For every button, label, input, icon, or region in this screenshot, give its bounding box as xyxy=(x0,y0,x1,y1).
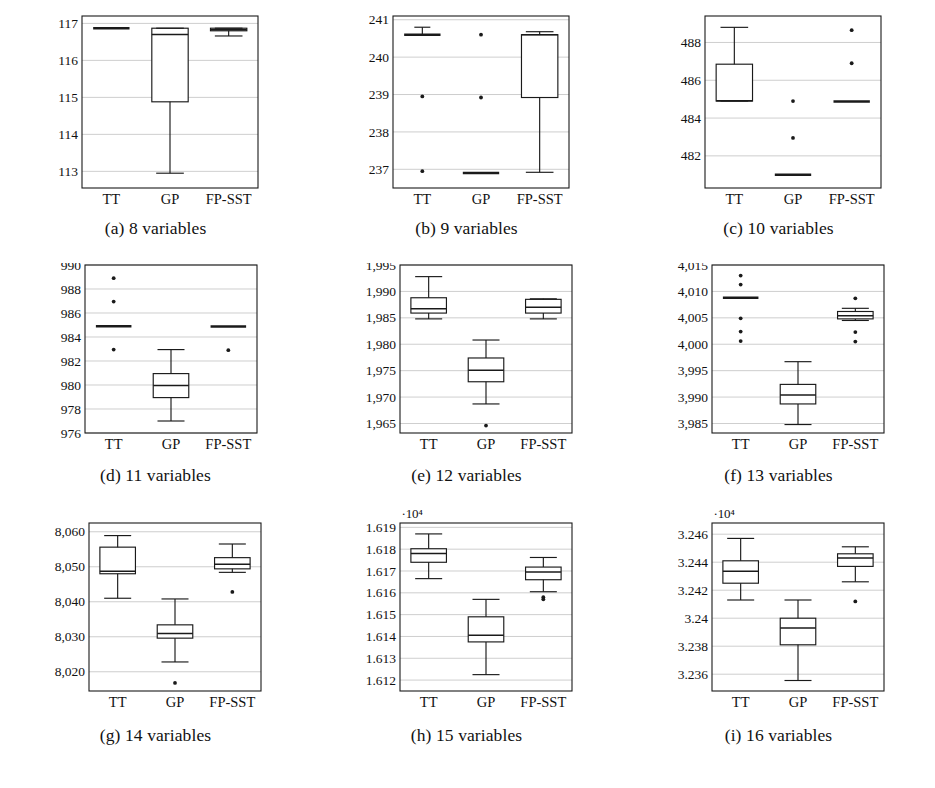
y-tick-label: 4,000 xyxy=(677,337,708,352)
y-tick-label: 117 xyxy=(58,16,78,31)
panel-e: 1,9651,9701,9751,9801,9851,9901,995TTGPF… xyxy=(311,253,622,503)
box-e-tt xyxy=(410,277,446,319)
y-tick-label: 240 xyxy=(368,50,389,65)
category-label-fp-sst: FP-SST xyxy=(832,694,878,710)
category-label-gp: GP xyxy=(788,436,807,452)
y-tick-label: 3.238 xyxy=(677,639,708,654)
axis-exponent-h: ·10⁴ xyxy=(402,507,423,520)
box-b-gp xyxy=(462,33,498,173)
box-rect xyxy=(468,617,504,642)
category-label-gp: GP xyxy=(476,694,495,710)
panel-f: 3,9853,9903,9954,0004,0054,0104,015TTGPF… xyxy=(622,253,935,503)
outlier-point xyxy=(791,99,795,103)
y-tick-label: 1.617 xyxy=(365,564,396,579)
y-tick-label: 990 xyxy=(60,263,81,273)
y-tick-label: 1.615 xyxy=(365,607,396,622)
y-tick-label: 1.613 xyxy=(365,651,396,666)
box-rect xyxy=(780,384,816,404)
outlier-point xyxy=(111,300,115,304)
y-tick-label: 976 xyxy=(60,426,81,441)
panel-caption-h: (h) 15 variables xyxy=(411,725,522,746)
outlier-point xyxy=(173,681,177,685)
outlier-point xyxy=(541,597,545,601)
y-tick-label: 3.244 xyxy=(677,555,708,570)
outlier-point xyxy=(853,340,857,344)
plot-area-f: 3,9853,9903,9954,0004,0054,0104,015TTGPF… xyxy=(664,263,894,457)
box-i-tt xyxy=(722,538,758,600)
category-label-tt: TT xyxy=(413,191,431,207)
box-rect xyxy=(525,567,561,580)
category-label-gp: GP xyxy=(788,694,807,710)
y-tick-label: 4,005 xyxy=(677,310,708,325)
panel-i: ·10⁴3.2363.2383.243.2423.2443.246TTGPFP-… xyxy=(622,503,935,788)
box-h-tt xyxy=(410,534,446,579)
category-label-fp-sst: FP-SST xyxy=(828,191,874,207)
plot-area-c: 482484486488TTGPFP-SST xyxy=(667,14,891,212)
category-label-gp: GP xyxy=(471,191,490,207)
boxplot-figure: 113114115116117TTGPFP-SST(a) 8 variables… xyxy=(0,0,935,788)
category-label-tt: TT xyxy=(104,436,122,452)
outlier-point xyxy=(791,136,795,140)
y-tick-label: 986 xyxy=(60,306,81,321)
category-label-gp: GP xyxy=(165,694,184,710)
box-rect xyxy=(410,549,446,563)
boxplot-svg-g: 8,0208,0308,0408,0508,060TTGPFP-SST xyxy=(41,521,271,715)
plot-area-i: ·10⁴3.2363.2383.243.2423.2443.246TTGPFP-… xyxy=(664,521,894,715)
box-g-fp-sst xyxy=(214,544,250,594)
axis-exponent-i: ·10⁴ xyxy=(714,507,735,520)
plot-area-d: 976978980982984986988990TTGPFP-SST xyxy=(45,263,267,457)
outlier-point xyxy=(853,330,857,334)
plot-area-b: 237238239240241TTGPFP-SST xyxy=(355,14,579,212)
box-d-tt xyxy=(95,276,131,351)
boxplot-svg-c: 482484486488TTGPFP-SST xyxy=(667,14,891,212)
panel-grid: 113114115116117TTGPFP-SST(a) 8 variables… xyxy=(0,0,935,788)
boxplot-svg-h: 1.6121.6131.6141.6151.6161.6171.6181.619… xyxy=(352,521,582,715)
y-tick-label: 1,980 xyxy=(365,337,396,352)
boxplot-svg-f: 3,9853,9903,9954,0004,0054,0104,015TTGPF… xyxy=(664,263,894,457)
box-b-fp-sst xyxy=(521,32,557,173)
y-tick-label: 980 xyxy=(60,378,81,393)
outlier-point xyxy=(420,169,424,173)
panel-d: 976978980982984986988990TTGPFP-SST(d) 11… xyxy=(0,253,311,503)
y-tick-label: 238 xyxy=(368,125,389,140)
outlier-point xyxy=(738,330,742,334)
y-tick-label: 3.236 xyxy=(677,667,708,682)
panel-caption-e: (e) 12 variables xyxy=(411,465,521,486)
y-tick-label: 239 xyxy=(368,87,389,102)
outlier-point xyxy=(226,348,230,352)
outlier-point xyxy=(479,33,483,37)
y-tick-label: 3,995 xyxy=(677,363,708,378)
box-rect xyxy=(716,64,752,101)
y-tick-label: 116 xyxy=(58,53,78,68)
category-label-fp-sst: FP-SST xyxy=(205,436,251,452)
box-f-tt xyxy=(722,274,758,343)
outlier-point xyxy=(738,283,742,287)
outlier-point xyxy=(849,61,853,65)
outlier-point xyxy=(230,590,234,594)
category-label-tt: TT xyxy=(731,436,749,452)
category-label-fp-sst: FP-SST xyxy=(520,694,566,710)
plot-area-g: 8,0208,0308,0408,0508,060TTGPFP-SST xyxy=(41,521,271,715)
box-f-fp-sst xyxy=(837,296,873,343)
box-h-fp-sst xyxy=(525,557,561,601)
outlier-point xyxy=(479,96,483,100)
y-tick-label: 1.614 xyxy=(365,629,396,644)
outlier-point xyxy=(853,296,857,300)
y-tick-label: 3.246 xyxy=(677,527,708,542)
box-rect xyxy=(837,554,873,567)
category-label-gp: GP xyxy=(161,436,180,452)
box-c-tt xyxy=(716,27,752,101)
box-i-gp xyxy=(780,600,816,681)
outlier-point xyxy=(738,316,742,320)
category-label-gp: GP xyxy=(160,191,179,207)
outlier-point xyxy=(849,28,853,32)
box-a-gp xyxy=(151,28,187,173)
boxplot-svg-d: 976978980982984986988990TTGPFP-SST xyxy=(45,263,267,457)
panel-caption-d: (d) 11 variables xyxy=(100,465,211,486)
outlier-point xyxy=(738,274,742,278)
category-label-fp-sst: FP-SST xyxy=(520,436,566,452)
y-tick-label: 1.612 xyxy=(365,673,395,688)
y-tick-label: 1,975 xyxy=(365,363,396,378)
y-tick-label: 488 xyxy=(680,35,701,50)
box-rect xyxy=(521,35,557,98)
